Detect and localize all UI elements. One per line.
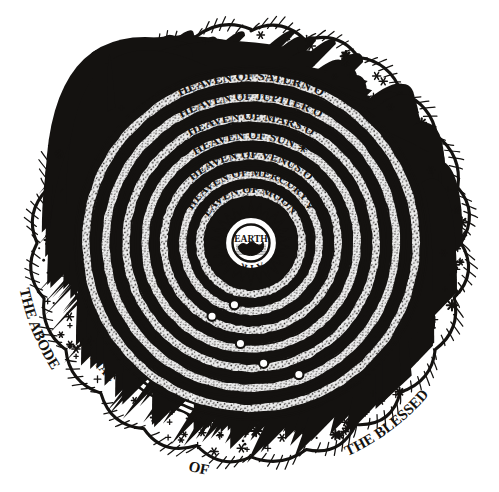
- water-label: WATER: [239, 246, 263, 253]
- of-label: OF: [187, 458, 211, 478]
- earth-label: EARTH: [234, 234, 268, 244]
- abode-label: THE ABODE: [17, 286, 64, 372]
- cosmos-diagram: HEAVEN OF MOON OHEAVEN OF MERCURY ☿HEAVE…: [0, 0, 499, 492]
- cosmos-svg-canvas: HEAVEN OF MOON OHEAVEN OF MERCURY ☿HEAVE…: [0, 0, 499, 492]
